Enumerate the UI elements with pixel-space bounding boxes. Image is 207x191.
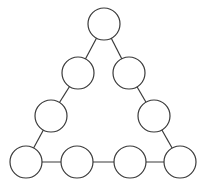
circle-node-bottom-mid-right (114, 146, 146, 178)
empty-circle (114, 146, 146, 178)
circle-node-left-upper (62, 57, 94, 89)
circle-node-right-lower (138, 100, 170, 132)
magic-triangle-diagram (0, 0, 207, 191)
empty-circle (138, 100, 170, 132)
circle-node-bottom-left (10, 146, 42, 178)
empty-circle (10, 146, 42, 178)
circle-node-right-upper (113, 57, 145, 89)
circle-node-bottom-mid-left (61, 146, 93, 178)
empty-circle (35, 100, 67, 132)
circle-node-bottom-right (164, 146, 196, 178)
empty-circle (61, 146, 93, 178)
empty-circle (88, 8, 120, 40)
empty-circle (62, 57, 94, 89)
empty-circle (164, 146, 196, 178)
circle-node-top (88, 8, 120, 40)
circle-node-left-lower (35, 100, 67, 132)
edge-group (26, 24, 180, 162)
empty-circle (113, 57, 145, 89)
node-group (10, 8, 196, 178)
